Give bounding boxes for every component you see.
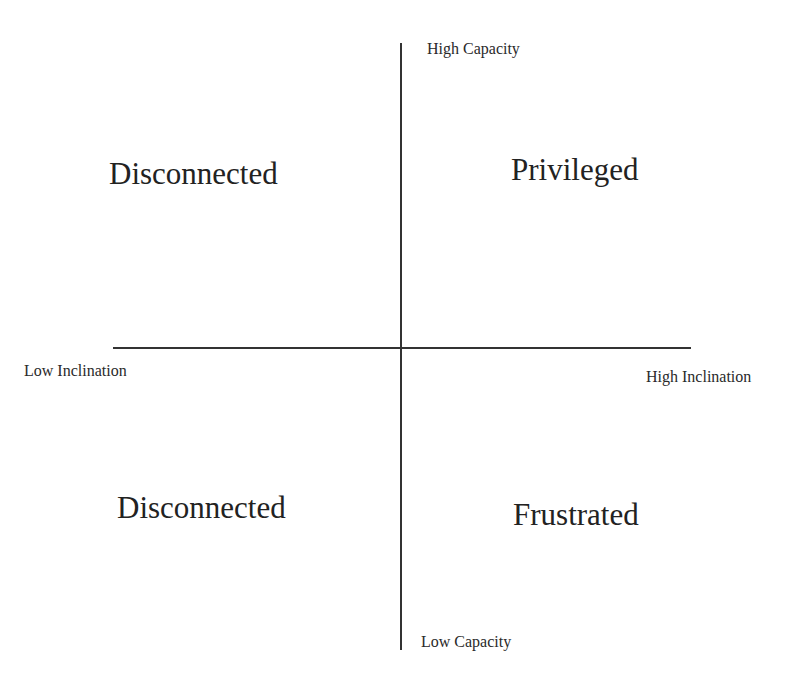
low-inclination-label: Low Inclination xyxy=(24,362,127,380)
low-capacity-label: Low Capacity xyxy=(421,633,511,651)
quadrant-top-left-label: Disconnected xyxy=(109,156,278,192)
high-capacity-label: High Capacity xyxy=(427,40,520,58)
quadrant-diagram: High Capacity Low Capacity Low Inclinati… xyxy=(0,0,800,678)
quadrant-bottom-left-label: Disconnected xyxy=(117,490,286,526)
high-inclination-label: High Inclination xyxy=(646,368,751,386)
quadrant-bottom-right-label: Frustrated xyxy=(513,497,639,533)
quadrant-top-right-label: Privileged xyxy=(511,152,638,188)
inclination-axis-line xyxy=(113,347,691,349)
